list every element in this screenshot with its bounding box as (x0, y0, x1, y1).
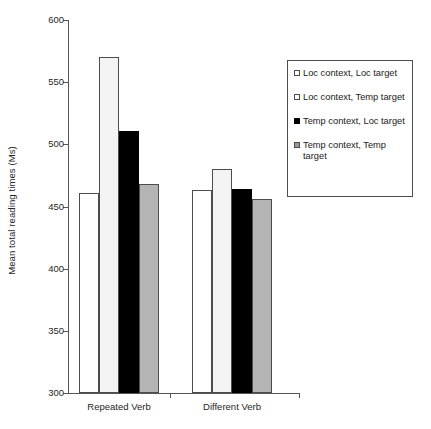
white-square-icon (294, 70, 300, 76)
y-tick-label: 550 (48, 77, 64, 87)
legend-item-label: Temp context, Temp target (303, 140, 407, 162)
x-group-label: Different Verb (203, 401, 261, 412)
legend-item-label: Loc context, Temp target (303, 92, 405, 103)
plot-area: 300350400450500550600 Repeated VerbDiffe… (68, 20, 300, 393)
x-axis-line (68, 393, 300, 394)
y-tick-label: 600 (48, 15, 64, 25)
light-square-icon (294, 94, 300, 100)
bar (232, 189, 252, 393)
y-tick-label: 500 (48, 140, 64, 150)
y-tick-label: 400 (48, 264, 64, 274)
bar (252, 199, 272, 393)
legend-item-label: Loc context, Loc target (303, 68, 397, 79)
black-square-icon (294, 118, 300, 124)
bar (192, 190, 212, 393)
y-tick-label: 450 (48, 202, 64, 212)
legend: Loc context, Loc targetLoc context, Temp… (287, 60, 413, 197)
x-tick-mark (299, 393, 300, 398)
y-axis-title: Mean total reading times (Ms) (0, 122, 22, 298)
gray-square-icon (294, 142, 300, 148)
bar-chart-figure: Mean total reading times (Ms) 3003504004… (0, 0, 431, 429)
legend-item: Temp context, Loc target (294, 116, 407, 127)
bar (139, 184, 159, 393)
y-axis-line (68, 20, 69, 393)
bar (99, 57, 119, 393)
x-tick-mark (170, 393, 171, 398)
legend-item: Loc context, Temp target (294, 92, 407, 103)
y-tick-label: 350 (48, 326, 64, 336)
y-axis-title-text: Mean total reading times (Ms) (6, 146, 17, 275)
bar (79, 193, 99, 393)
legend-item: Temp context, Temp target (294, 140, 407, 162)
legend-item-label: Temp context, Loc target (303, 116, 405, 127)
bar (119, 131, 139, 393)
x-group-label: Repeated Verb (87, 401, 150, 412)
legend-item: Loc context, Loc target (294, 68, 407, 79)
y-tick-label: 300 (48, 388, 64, 398)
bar (212, 169, 232, 393)
